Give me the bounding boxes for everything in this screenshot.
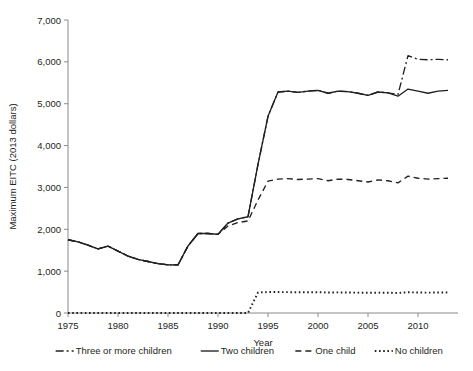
series-line-three-or-more-children: [68, 56, 448, 265]
legend-label: No children: [395, 345, 443, 356]
legend-label: Three or more children: [76, 345, 172, 356]
eitc-line-chart: 01,0002,0003,0004,0005,0006,0007,0001975…: [0, 0, 473, 371]
y-tick-label: 2,000: [37, 224, 61, 235]
y-axis-title: Maximum EITC (2013 dollars): [7, 103, 18, 229]
legend-label: One child: [315, 345, 355, 356]
x-tick-label: 2000: [307, 320, 328, 331]
legend-label: Two children: [221, 345, 274, 356]
y-tick-label: 1,000: [37, 266, 61, 277]
y-tick-label: 6,000: [37, 56, 61, 67]
x-tick-label: 2005: [357, 320, 378, 331]
x-tick-label: 1995: [257, 320, 278, 331]
x-tick-label: 1985: [157, 320, 178, 331]
series-line-no-children: [68, 292, 448, 313]
x-tick-label: 2010: [407, 320, 428, 331]
series-line-two-children: [68, 89, 448, 265]
legend-item-two-children[interactable]: Two children: [201, 345, 274, 356]
y-tick-label: 4,000: [37, 140, 61, 151]
legend-item-no-children[interactable]: No children: [375, 345, 443, 356]
x-tick-label: 1975: [57, 320, 78, 331]
y-tick-label: 3,000: [37, 182, 61, 193]
legend-item-three-or-more-children[interactable]: Three or more children: [56, 345, 172, 356]
x-tick-label: 1990: [207, 320, 228, 331]
y-tick-label: 7,000: [37, 15, 61, 26]
legend-item-one-child[interactable]: One child: [295, 345, 355, 356]
series-line-one-child: [68, 176, 448, 265]
x-tick-label: 1980: [107, 320, 128, 331]
y-tick-label: 5,000: [37, 98, 61, 109]
y-tick-label: 0: [56, 308, 61, 319]
chart-canvas: 01,0002,0003,0004,0005,0006,0007,0001975…: [0, 0, 473, 371]
